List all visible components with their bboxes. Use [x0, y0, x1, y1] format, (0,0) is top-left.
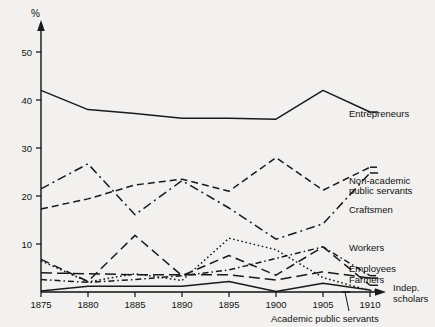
y-axis: [37, 20, 45, 292]
y-tick-label: 40: [21, 95, 32, 106]
series-label-farmers: Farmers: [349, 274, 385, 285]
line-chart-canvas: % 1020304050 187518801885189018951900190…: [0, 0, 435, 327]
series-label-craftsmen: Craftsmen: [349, 204, 393, 215]
annotation-leader-line: [345, 292, 349, 311]
x-tick-label: 1885: [124, 299, 145, 310]
y-tick-label: 50: [21, 47, 32, 58]
x-tick-label: 1900: [265, 299, 286, 310]
x-axis: [41, 288, 386, 295]
x-tick-label: 1880: [77, 299, 98, 310]
y-axis-arrowhead: [37, 20, 45, 31]
x-tick-label: 1905: [312, 299, 333, 310]
x-tick-label: 1895: [218, 299, 239, 310]
series-label-non-academic-public-servants-line2: public servants: [349, 185, 413, 196]
series-line-non-academic-public-servants: [41, 158, 370, 209]
y-tick-label: 20: [21, 191, 32, 202]
series-line-craftsmen: [41, 164, 370, 239]
series-label-employees: Employees: [349, 263, 396, 274]
annotation-academic-public-servants: Academic public servants: [271, 313, 379, 324]
y-axis-unit-label: %: [31, 8, 40, 19]
series-line-workers: [41, 247, 370, 283]
y-tick-label: 10: [21, 239, 32, 250]
series-lines-layer: [41, 90, 378, 292]
x-tick-label: 1910: [359, 299, 380, 310]
series-line-academic-public-servants: [41, 281, 370, 291]
series-label-indep-scholars-line2: scholars: [393, 293, 429, 304]
series-label-indep-scholars-line1: Indep.: [393, 282, 419, 293]
series-label-entrepreneurs: Entrepreneurs: [349, 108, 409, 119]
chart-figure: % 1020304050 187518801885189018951900190…: [0, 0, 435, 327]
series-label-workers: Workers: [349, 242, 384, 253]
x-axis-arrowhead: [375, 288, 386, 295]
series-line-entrepreneurs: [41, 90, 370, 119]
x-axis-ticks: 18751880188518901895190019051910: [30, 292, 380, 310]
y-tick-label: 30: [21, 143, 32, 154]
x-tick-label: 1875: [30, 299, 51, 310]
x-tick-label: 1890: [171, 299, 192, 310]
y-axis-ticks: 1020304050: [21, 47, 41, 250]
series-line-indep-scholars: [41, 238, 370, 290]
